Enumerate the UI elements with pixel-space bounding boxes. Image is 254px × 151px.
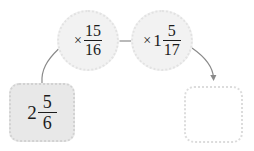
start-numerator: 5 — [42, 93, 53, 112]
operation-2-fraction: 5 17 — [163, 23, 181, 59]
operation-1-fraction: 15 16 — [84, 23, 102, 59]
operation-node-1[interactable]: × 15 16 — [57, 10, 119, 71]
operation-1-denominator: 16 — [84, 41, 102, 58]
start-value-expression: 2 5 6 — [27, 93, 57, 133]
answer-value[interactable] — [186, 88, 241, 141]
operation-1-numerator: 15 — [84, 23, 102, 40]
operation-2-expression: × 1 5 17 — [143, 23, 180, 59]
function-machine-diagram: × 15 16 × 1 5 17 2 5 6 — [0, 0, 254, 151]
multiply-icon: × — [143, 34, 151, 48]
operation-node-2[interactable]: × 1 5 17 — [131, 10, 193, 71]
multiply-icon: × — [74, 34, 82, 48]
connector-start-to-op1 — [42, 49, 59, 83]
start-whole-number: 2 — [27, 103, 37, 122]
operation-1-expression: × 15 16 — [74, 23, 102, 59]
connector-op2-to-answer — [192, 48, 214, 78]
operation-2-numerator: 5 — [167, 23, 177, 40]
start-value-box[interactable]: 2 5 6 — [9, 83, 75, 142]
operation-2-denominator: 17 — [163, 41, 181, 58]
answer-input-box[interactable] — [184, 86, 243, 143]
operation-2-whole-number: 1 — [153, 32, 162, 49]
start-denominator: 6 — [42, 113, 53, 132]
start-fraction: 5 6 — [38, 93, 57, 133]
